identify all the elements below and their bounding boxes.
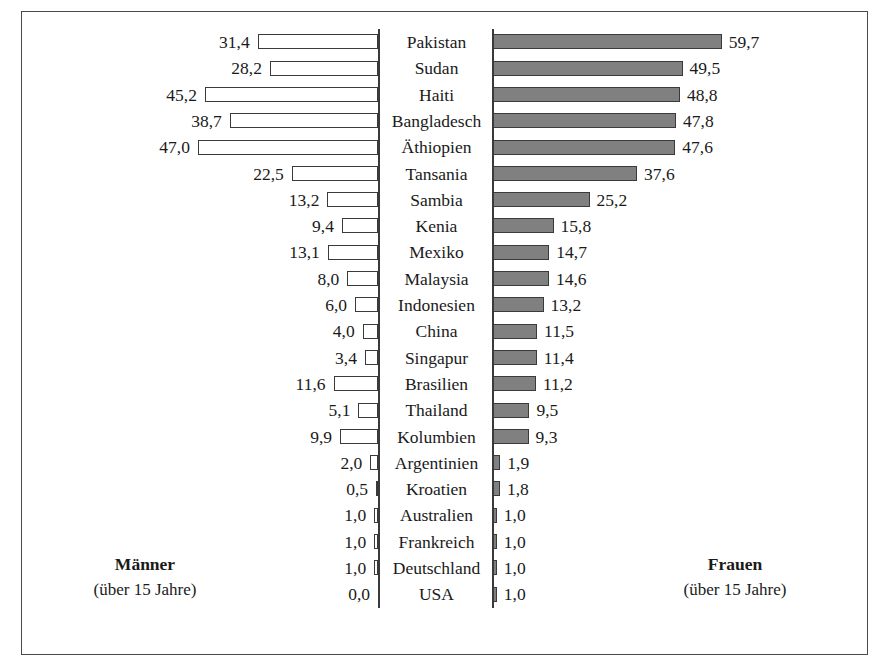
legend-men-title: Männer xyxy=(30,552,260,577)
value-label-women: 9,5 xyxy=(536,397,558,423)
country-label: Äthiopien xyxy=(381,134,492,160)
value-label-men: 8,0 xyxy=(237,266,339,292)
country-label: Indonesien xyxy=(381,292,492,318)
bar-men xyxy=(292,166,378,181)
value-label-women: 1,0 xyxy=(504,502,526,528)
value-label-women: 1,0 xyxy=(504,555,526,581)
value-label-women: 1,0 xyxy=(504,581,526,607)
bar-row: 47,0Äthiopien47,6 xyxy=(0,134,892,160)
bar-row: 9,9Kolumbien9,3 xyxy=(0,424,892,450)
value-label-women: 11,2 xyxy=(543,371,573,397)
bar-men xyxy=(198,140,378,155)
country-label: Mexiko xyxy=(381,239,492,265)
bar-men xyxy=(205,87,378,102)
value-label-men: 47,0 xyxy=(88,134,190,160)
value-label-women: 47,6 xyxy=(682,134,713,160)
bar-men xyxy=(374,508,378,523)
bar-men xyxy=(230,113,378,128)
value-label-women: 48,8 xyxy=(687,82,718,108)
value-label-women: 47,8 xyxy=(683,108,714,134)
value-label-women: 59,7 xyxy=(729,29,760,55)
value-label-men: 4,0 xyxy=(253,318,355,344)
value-label-men: 2,0 xyxy=(260,450,362,476)
bar-women xyxy=(493,587,497,602)
bar-women xyxy=(493,508,497,523)
value-label-women: 1,0 xyxy=(504,529,526,555)
country-label: China xyxy=(381,318,492,344)
bar-men xyxy=(347,271,378,286)
value-label-women: 11,5 xyxy=(544,318,574,344)
bar-women xyxy=(493,560,497,575)
bar-row: 38,7Bangladesch47,8 xyxy=(0,108,892,134)
value-label-men: 5,1 xyxy=(248,397,350,423)
bar-row: 11,6Brasilien11,2 xyxy=(0,371,892,397)
bar-women xyxy=(493,455,500,470)
value-label-women: 49,5 xyxy=(690,55,721,81)
bar-row: 28,2Sudan49,5 xyxy=(0,55,892,81)
bar-women xyxy=(493,34,722,49)
value-label-women: 25,2 xyxy=(597,187,628,213)
bar-women xyxy=(493,166,637,181)
country-label: Kolumbien xyxy=(381,424,492,450)
country-label: Australien xyxy=(381,502,492,528)
bar-row: 45,2Haiti48,8 xyxy=(0,82,892,108)
bar-women xyxy=(493,534,497,549)
value-label-women: 15,8 xyxy=(561,213,592,239)
value-label-men: 45,2 xyxy=(95,82,197,108)
value-label-men: 31,4 xyxy=(148,29,250,55)
country-label: USA xyxy=(381,581,492,607)
bar-row: 5,1Thailand9,5 xyxy=(0,397,892,423)
bar-row: 2,0Argentinien1,9 xyxy=(0,450,892,476)
bar-women xyxy=(493,429,529,444)
bar-men xyxy=(258,34,378,49)
country-label: Argentinien xyxy=(381,450,492,476)
bar-women xyxy=(493,87,680,102)
legend-men: Männer (über 15 Jahre) xyxy=(30,552,260,602)
bar-row: 6,0Indonesien13,2 xyxy=(0,292,892,318)
value-label-men: 6,0 xyxy=(245,292,347,318)
bar-row: 4,0China11,5 xyxy=(0,318,892,344)
bar-men xyxy=(340,429,378,444)
country-label: Haiti xyxy=(381,82,492,108)
value-label-women: 1,8 xyxy=(507,476,529,502)
legend-women-subtitle: (über 15 Jahre) xyxy=(620,577,850,602)
bar-women xyxy=(493,376,536,391)
country-label: Sambia xyxy=(381,187,492,213)
bar-women xyxy=(493,271,549,286)
value-label-women: 14,6 xyxy=(556,266,587,292)
bar-men xyxy=(374,534,378,549)
bar-women xyxy=(493,350,537,365)
value-label-men: 9,4 xyxy=(232,213,334,239)
bar-women xyxy=(493,192,590,207)
bar-women xyxy=(493,324,537,339)
country-label: Thailand xyxy=(381,397,492,423)
value-label-women: 1,9 xyxy=(507,450,529,476)
bar-row: 9,4Kenia15,8 xyxy=(0,213,892,239)
value-label-men: 28,2 xyxy=(160,55,262,81)
bar-women xyxy=(493,245,549,260)
country-label: Deutschland xyxy=(381,555,492,581)
legend-women-title: Frauen xyxy=(620,552,850,577)
bar-row: 13,2Sambia25,2 xyxy=(0,187,892,213)
value-label-women: 11,4 xyxy=(544,345,574,371)
country-label: Tansania xyxy=(381,161,492,187)
value-label-men: 0,0 xyxy=(268,581,370,607)
country-label: Kenia xyxy=(381,213,492,239)
bar-row: 8,0Malaysia14,6 xyxy=(0,266,892,292)
bar-row: 31,4Pakistan59,7 xyxy=(0,29,892,55)
country-label: Malaysia xyxy=(381,266,492,292)
bar-men xyxy=(342,218,378,233)
country-label: Pakistan xyxy=(381,29,492,55)
bar-women xyxy=(493,218,554,233)
bar-men xyxy=(327,192,378,207)
country-label: Singapur xyxy=(381,345,492,371)
value-label-women: 9,3 xyxy=(536,424,558,450)
country-label: Sudan xyxy=(381,55,492,81)
bar-men xyxy=(363,324,378,339)
value-label-men: 22,5 xyxy=(182,161,284,187)
country-label: Brasilien xyxy=(381,371,492,397)
bar-men xyxy=(365,350,378,365)
bar-men xyxy=(355,297,378,312)
country-label: Kroatien xyxy=(381,476,492,502)
bar-men xyxy=(334,376,378,391)
